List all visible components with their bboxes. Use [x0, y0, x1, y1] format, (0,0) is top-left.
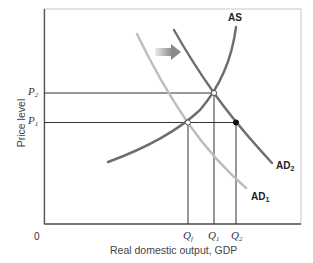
- ad2-curve: [174, 30, 272, 163]
- ad1-label-sub: 1: [265, 196, 269, 203]
- q2-sub: 2: [239, 235, 243, 243]
- origin-label: 0: [34, 231, 40, 242]
- ad1-label: AD1: [251, 191, 269, 203]
- shift-arrow-icon: [155, 44, 181, 60]
- q2-tick-label: Q2: [231, 229, 242, 243]
- ad2-label-main: AD: [276, 160, 290, 171]
- x-axis-label: Real domestic output, GDP: [110, 244, 237, 256]
- q1-main: Q: [208, 229, 216, 241]
- ad2-label: AD2: [276, 160, 294, 172]
- qf-main: Q: [183, 229, 191, 241]
- as-label: AS: [228, 12, 242, 23]
- qf-sub: f: [191, 235, 193, 243]
- p2-tick-label: P2: [28, 85, 38, 99]
- q1-sub: 1: [216, 235, 220, 243]
- equilibrium-p2-q1: [211, 90, 216, 95]
- p1-tick-label: P1: [28, 114, 38, 128]
- point-p1-q2: [233, 120, 238, 125]
- p1-sub: 1: [35, 120, 39, 128]
- ad2-label-sub: 2: [290, 165, 294, 172]
- equilibrium-p1-qf: [185, 120, 190, 125]
- ad1-label-main: AD: [251, 191, 265, 202]
- q1-tick-label: Q1: [208, 229, 219, 243]
- y-axis-label: Price level: [15, 88, 27, 158]
- p2-main: P: [28, 85, 35, 97]
- p1-main: P: [28, 114, 35, 126]
- q2-main: Q: [231, 229, 239, 241]
- ad-as-chart: [0, 0, 313, 263]
- p2-sub: 2: [35, 91, 39, 99]
- qf-tick-label: Qf: [183, 229, 193, 243]
